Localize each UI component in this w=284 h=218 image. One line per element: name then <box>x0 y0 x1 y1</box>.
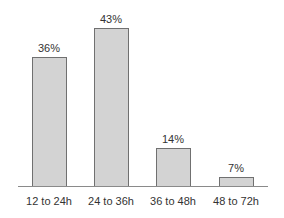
bar-48-to-72h <box>219 177 254 186</box>
bar-36-to-48h <box>156 148 191 186</box>
bar-12-to-24h <box>32 57 67 186</box>
category-label: 12 to 24h <box>17 195 81 207</box>
category-label: 24 to 36h <box>79 195 143 207</box>
x-axis-line <box>18 186 268 187</box>
value-label: 7% <box>206 162 266 174</box>
bar-24-to-36h <box>94 28 129 186</box>
value-label: 36% <box>19 42 79 54</box>
value-label: 14% <box>143 133 203 145</box>
category-label: 36 to 48h <box>141 195 205 207</box>
value-label: 43% <box>81 13 141 25</box>
category-label: 48 to 72h <box>204 195 268 207</box>
